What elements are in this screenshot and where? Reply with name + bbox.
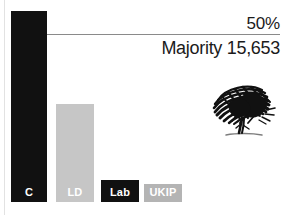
bar-ld: LD [56,104,94,202]
bar-ukip: UKIP [144,184,182,202]
election-result-bar-chart: 50% Majority 15,653 C LD Lab UKIP [0,0,286,215]
bar-c: C [11,11,47,202]
bar-label-lab: Lab [101,186,139,198]
bar-label-ld: LD [56,186,94,198]
bar-label-c: C [11,186,47,198]
bar-lab: Lab [101,180,139,202]
oak-tree-logo [210,78,276,140]
bar-label-ukip: UKIP [144,186,182,198]
